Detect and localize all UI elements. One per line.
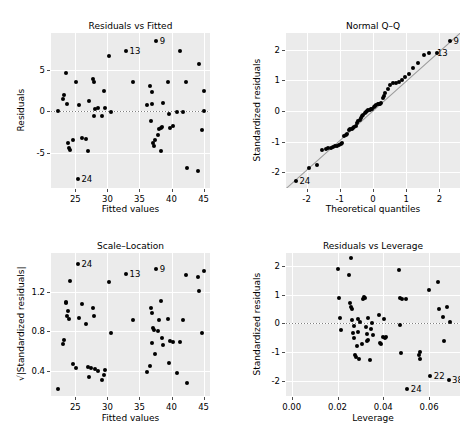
data-point xyxy=(418,357,422,361)
data-point xyxy=(355,344,359,348)
data-point xyxy=(365,332,369,336)
data-point xyxy=(397,268,401,272)
data-point xyxy=(445,305,449,309)
gridline-vertical xyxy=(292,253,293,396)
data-point xyxy=(436,280,440,284)
data-point xyxy=(437,307,441,311)
data-point xyxy=(350,307,354,311)
data-point xyxy=(370,321,374,325)
data-point xyxy=(350,318,354,322)
gridline-horizontal xyxy=(286,295,460,296)
data-point xyxy=(357,357,361,361)
data-point xyxy=(371,333,375,337)
data-point xyxy=(337,296,341,300)
y-axis-label: Standardized residuals xyxy=(253,273,262,376)
y-axis-tick xyxy=(282,381,285,382)
panel-residuals-vs-leverage: Residuals vs Leverage2238240.000.020.040… xyxy=(0,0,468,445)
data-point xyxy=(339,328,343,332)
outlier-label: 38 xyxy=(452,375,460,384)
data-point xyxy=(363,296,367,300)
gridline-vertical xyxy=(383,253,384,396)
data-point xyxy=(384,335,388,339)
x-axis-tick xyxy=(383,397,384,400)
diagnostic-plot-figure: Residuals vs Fitted913242530354045-505Fi… xyxy=(0,0,468,445)
chart-title: Residuals vs Leverage xyxy=(286,242,460,251)
data-point xyxy=(352,324,356,328)
data-point xyxy=(338,316,342,320)
data-point xyxy=(442,339,446,343)
data-point xyxy=(399,351,403,355)
x-axis-tick-label: 0.02 xyxy=(328,403,347,412)
data-point xyxy=(382,317,386,321)
data-point xyxy=(405,387,409,391)
data-point xyxy=(398,323,402,327)
x-axis-tick-label: 0.04 xyxy=(374,403,393,412)
data-point xyxy=(366,316,370,320)
x-axis-tick-label: 0.00 xyxy=(282,403,301,412)
x-axis-tick xyxy=(292,397,293,400)
x-axis-label: Leverage xyxy=(286,414,460,423)
gridline-horizontal xyxy=(286,381,460,382)
data-point xyxy=(418,350,422,354)
gridline-vertical xyxy=(338,253,339,396)
plot-area: 223824 xyxy=(286,253,460,396)
data-point xyxy=(364,325,368,329)
data-point xyxy=(447,378,451,382)
data-point xyxy=(351,331,355,335)
outlier-label: 22 xyxy=(434,372,445,381)
y-axis-tick-label: -2 xyxy=(258,377,280,386)
data-point xyxy=(352,336,356,340)
outlier-label: 24 xyxy=(411,385,422,394)
x-axis-tick-label: 0.06 xyxy=(420,403,439,412)
y-axis-tick xyxy=(282,295,285,296)
data-point xyxy=(360,342,364,346)
data-point xyxy=(347,273,351,277)
gridline-horizontal xyxy=(286,352,460,353)
y-axis-tick xyxy=(282,266,285,267)
data-point xyxy=(400,297,404,301)
data-point xyxy=(428,374,432,378)
data-point xyxy=(349,256,353,260)
data-point xyxy=(366,338,370,342)
data-point xyxy=(369,327,373,331)
data-point xyxy=(368,358,372,362)
y-axis-tick xyxy=(282,323,285,324)
data-point xyxy=(441,315,445,319)
x-axis-tick xyxy=(338,397,339,400)
y-axis-tick-label: 2 xyxy=(258,262,280,271)
data-point xyxy=(356,330,360,334)
data-point xyxy=(427,288,431,292)
data-point xyxy=(404,297,408,301)
data-point xyxy=(377,313,381,317)
data-point xyxy=(336,267,340,271)
gridline-horizontal xyxy=(286,266,460,267)
y-axis-tick xyxy=(282,352,285,353)
x-axis-tick xyxy=(429,397,430,400)
